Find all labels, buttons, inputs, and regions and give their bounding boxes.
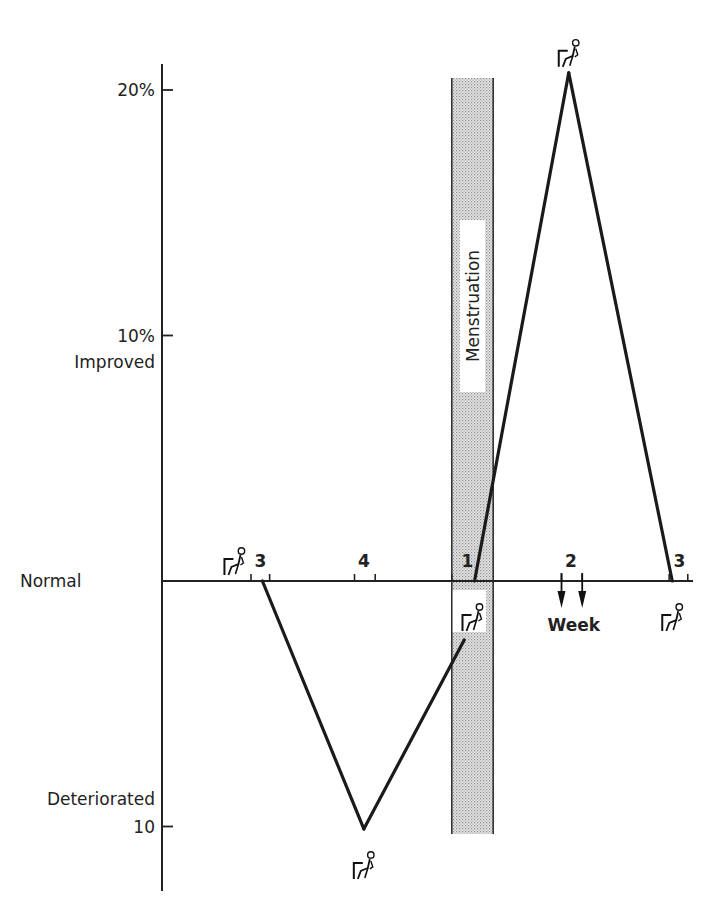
y-tick-label: 10% (117, 326, 155, 346)
x-week-label: 2 (565, 551, 577, 571)
series-line-segment (364, 640, 464, 829)
x-week-label: 1 (461, 551, 473, 571)
y-tick-label: 20% (117, 80, 155, 100)
y-annotation-label: Deteriorated (47, 789, 155, 809)
x-axis-label: Week (548, 615, 601, 635)
seated-figure-icon (354, 852, 374, 879)
menstruation-label: Menstruation (463, 250, 483, 362)
seated-figure-icon (224, 548, 244, 575)
y-annotation-label: Improved (74, 352, 155, 372)
x-week-label: 4 (358, 551, 370, 571)
menstruation-band (452, 78, 493, 834)
chart: Menstruation20%10%10ImprovedNormalDeteri… (0, 0, 725, 914)
x-arrow-head (558, 591, 566, 608)
y-tick-label: 10 (133, 817, 155, 837)
x-week-label: 3 (674, 551, 686, 571)
seated-figure-icon (662, 604, 682, 631)
series-line-segment (262, 581, 363, 829)
x-week-label: 3 (254, 551, 266, 571)
seated-figure-icon (559, 40, 579, 67)
x-arrow-head (578, 591, 586, 608)
marker-backdrop (453, 590, 486, 632)
y-annotation-label: Normal (20, 571, 82, 591)
series-line-segment (569, 73, 673, 581)
